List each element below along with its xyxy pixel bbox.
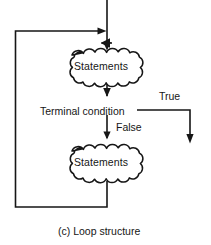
true-arrowhead-tip [186,134,193,144]
statements-block-bottom-label: Statements [74,157,128,168]
figure-caption: (c) Loop structure [58,226,140,237]
loopback-arrowhead-tip [98,27,107,34]
terminal-condition-label: Terminal condition [40,106,125,117]
statements-block-top-label: Statements [74,61,128,72]
loop-structure-figure: Statements Terminal condition False True… [0,0,211,245]
condition-arrowhead-tip [103,88,111,97]
false-branch-label: False [116,122,142,133]
true-branch-label: True [159,91,180,102]
true-branch-path [137,110,190,136]
flowchart-canvas [0,0,211,245]
false-arrowhead-tip [103,132,110,140]
